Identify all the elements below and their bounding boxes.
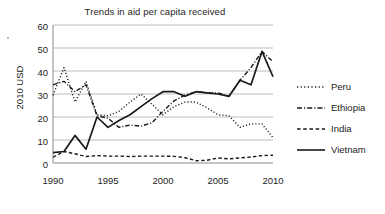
legend-swatch-peru [296,82,326,92]
legend-swatch-vietnam [296,145,326,155]
legend-item-ethiopia[interactable]: Ethiopia [296,97,384,118]
legend-label-india: India [326,123,352,134]
series-lines [53,51,273,160]
chart-container: Trends in aid per capita received 2010 U… [0,0,385,214]
series-line-ethiopia [53,51,273,127]
series-line-vietnam [53,51,273,152]
legend-label-peru: Peru [326,81,351,92]
legend-label-vietnam: Vietnam [326,144,366,155]
legend-label-ethiopia: Ethiopia [326,102,365,113]
legend-swatch-india [296,124,326,134]
legend-item-india[interactable]: India [296,118,384,139]
legend-item-vietnam[interactable]: Vietnam [296,139,384,160]
series-line-peru [53,68,273,138]
legend-item-peru[interactable]: Peru [296,76,384,97]
legend-swatch-ethiopia [296,103,326,113]
legend: Peru Ethiopia India Vietnam [296,76,384,160]
series-line-india [53,152,273,161]
